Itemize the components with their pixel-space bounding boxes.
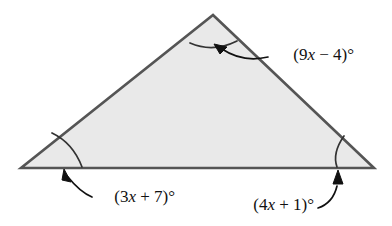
bottom-right-angle-label: (4x + 1)° [232, 195, 327, 214]
bottom-left-angle-label-suffix: + 7)° [136, 187, 175, 206]
apex-angle-label-suffix: − 4)° [315, 45, 354, 64]
apex-angle-label-prefix: (9 [293, 45, 307, 64]
bottom-left-angle-label-prefix: (3 [114, 187, 128, 206]
triangle-angle-diagram: (9x − 4)° (3x + 7)° (4x + 1)° [0, 0, 392, 226]
bottom-right-angle-label-suffix: + 1)° [275, 195, 314, 214]
bottom-right-angle-label-prefix: (4 [253, 195, 268, 214]
apex-angle-label: (9x − 4)° [272, 45, 367, 64]
bottom-left-angle-label: (3x + 7)° [93, 187, 188, 206]
